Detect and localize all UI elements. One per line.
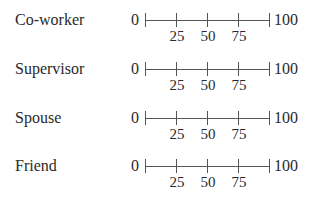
scale-label: Supervisor — [15, 60, 84, 78]
scale-end-tick — [269, 62, 270, 76]
tick-50 — [207, 111, 208, 125]
tick-50 — [207, 159, 208, 173]
scale-max-label: 100 — [274, 157, 298, 175]
scale-row-spouse: Spouse 0 25 50 75 100 — [0, 118, 313, 158]
tick-label-50: 50 — [201, 77, 216, 94]
tick-25 — [176, 13, 177, 27]
tick-75 — [238, 111, 239, 125]
scale-row-supervisor: Supervisor 0 25 50 75 100 — [0, 69, 313, 109]
scale-start-tick — [145, 159, 146, 173]
scale-row-friend: Friend 0 25 50 75 100 — [0, 166, 313, 202]
scale-end-tick — [269, 159, 270, 173]
scale-min-label: 0 — [131, 157, 139, 175]
tick-label-50: 50 — [201, 28, 216, 45]
scale-label: Friend — [15, 157, 57, 175]
scale-start-tick — [145, 62, 146, 76]
tick-label-50: 50 — [201, 174, 216, 191]
tick-75 — [238, 13, 239, 27]
tick-label-75: 75 — [232, 77, 247, 94]
scale-label: Spouse — [15, 109, 61, 127]
scale-start-tick — [145, 13, 146, 27]
tick-label-25: 25 — [170, 126, 185, 143]
scale-min-label: 0 — [131, 11, 139, 29]
scale-min-label: 0 — [131, 60, 139, 78]
tick-25 — [176, 159, 177, 173]
tick-label-25: 25 — [170, 77, 185, 94]
scale-max-label: 100 — [274, 60, 298, 78]
tick-75 — [238, 62, 239, 76]
tick-label-50: 50 — [201, 126, 216, 143]
tick-label-25: 25 — [170, 174, 185, 191]
scale-end-tick — [269, 13, 270, 27]
scale-max-label: 100 — [274, 11, 298, 29]
scale-start-tick — [145, 111, 146, 125]
scale-max-label: 100 — [274, 109, 298, 127]
tick-label-75: 75 — [232, 28, 247, 45]
scale-label: Co-worker — [15, 11, 84, 29]
tick-25 — [176, 111, 177, 125]
tick-50 — [207, 13, 208, 27]
tick-label-25: 25 — [170, 28, 185, 45]
tick-label-75: 75 — [232, 126, 247, 143]
tick-50 — [207, 62, 208, 76]
tick-label-75: 75 — [232, 174, 247, 191]
tick-75 — [238, 159, 239, 173]
scale-min-label: 0 — [131, 109, 139, 127]
scale-end-tick — [269, 111, 270, 125]
scale-row-coworker: Co-worker 0 25 50 75 100 — [0, 20, 313, 60]
tick-25 — [176, 62, 177, 76]
